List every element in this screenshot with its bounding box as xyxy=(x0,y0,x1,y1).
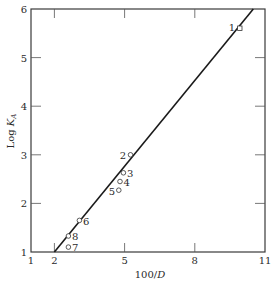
y-tick-label: 2 xyxy=(21,198,27,209)
data-point-square xyxy=(238,26,242,30)
data-point xyxy=(121,171,126,176)
plot-frame xyxy=(31,9,265,252)
y-tick-label: 5 xyxy=(21,53,27,64)
point-label: 6 xyxy=(83,216,89,227)
point-label: 1 xyxy=(229,22,235,33)
data-point xyxy=(66,245,71,250)
y-tick-label: 4 xyxy=(21,101,27,112)
point-label: 2 xyxy=(120,150,126,161)
point-label: 5 xyxy=(109,186,115,197)
chart-svg: 1 2 3 4 5 6 Log KA 1 2 5 8 11 100/D xyxy=(0,0,277,283)
x-axis-title: 100/D xyxy=(135,269,166,280)
x-tick-label: 1 xyxy=(28,255,34,266)
x-tick-label: 5 xyxy=(121,255,127,266)
y-tick-label: 6 xyxy=(21,4,27,15)
data-point xyxy=(66,234,71,239)
chart: 1 2 3 4 5 6 Log KA 1 2 5 8 11 100/D xyxy=(0,0,277,283)
point-label: 4 xyxy=(124,177,130,188)
y-tick-label: 1 xyxy=(21,247,27,258)
x-tick-label: 2 xyxy=(51,255,57,266)
point-label: 8 xyxy=(72,231,78,242)
y-tick-label: 3 xyxy=(21,150,27,161)
data-points: 1 2 3 4 5 6 7 8 xyxy=(66,22,242,253)
data-point xyxy=(117,188,122,193)
y-axis-title: Log KA xyxy=(5,114,18,149)
data-point xyxy=(118,179,123,184)
point-label: 7 xyxy=(72,242,78,253)
x-tick-label: 8 xyxy=(192,255,198,266)
x-tick-label: 11 xyxy=(259,255,272,266)
data-point xyxy=(77,218,82,223)
data-point xyxy=(128,153,133,158)
